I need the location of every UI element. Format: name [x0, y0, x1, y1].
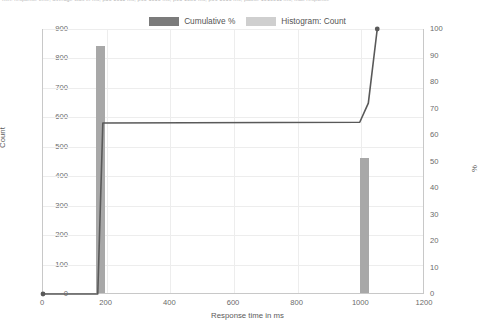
- y-tick-right: 30: [430, 210, 470, 219]
- x-tick: 0: [22, 298, 62, 307]
- x-tick: 600: [213, 298, 253, 307]
- cumulative-line-markers: [41, 27, 380, 297]
- clipped-header-line: min. response time, average wait in ms, …: [2, 0, 329, 2]
- y-tick-right: 40: [430, 183, 470, 192]
- y-axis-right-title: %: [470, 165, 479, 172]
- plot-area: [42, 29, 424, 294]
- y-tick-right: 20: [430, 236, 470, 245]
- y-tick-right: 50: [430, 157, 470, 166]
- chart-legend: Cumulative % Histogram: Count: [0, 16, 495, 26]
- x-tick: 1000: [340, 298, 380, 307]
- x-tick: 1200: [404, 298, 444, 307]
- cumulative-line-path: [43, 29, 377, 294]
- legend-label-cumulative-percent: Cumulative %: [184, 16, 235, 26]
- y-axis-left-title: Count: [0, 127, 7, 148]
- line-marker[interactable]: [375, 27, 380, 32]
- clipped-header-text: min. response time, average wait in ms, …: [0, 0, 495, 7]
- x-tick: 400: [149, 298, 189, 307]
- legend-swatch-cumulative-percent: [149, 17, 179, 26]
- y-tick-right: 10: [430, 263, 470, 272]
- x-tick: 800: [277, 298, 317, 307]
- legend-item-cumulative-percent[interactable]: Cumulative %: [149, 16, 235, 26]
- line-marker[interactable]: [41, 292, 46, 297]
- legend-swatch-histogram-count: [246, 17, 276, 26]
- x-tick: 200: [86, 298, 126, 307]
- legend-label-histogram-count: Histogram: Count: [281, 16, 346, 26]
- y-tick-right: 80: [430, 77, 470, 86]
- x-axis-title: Response time in ms: [0, 311, 495, 320]
- y-tick-right: 0: [430, 289, 470, 298]
- y-tick-right: 100: [430, 24, 470, 33]
- cumulative-percent-line: [43, 29, 425, 294]
- y-tick-right: 60: [430, 130, 470, 139]
- legend-item-histogram-count[interactable]: Histogram: Count: [246, 16, 346, 26]
- y-tick-right: 70: [430, 104, 470, 113]
- y-tick-right: 90: [430, 51, 470, 60]
